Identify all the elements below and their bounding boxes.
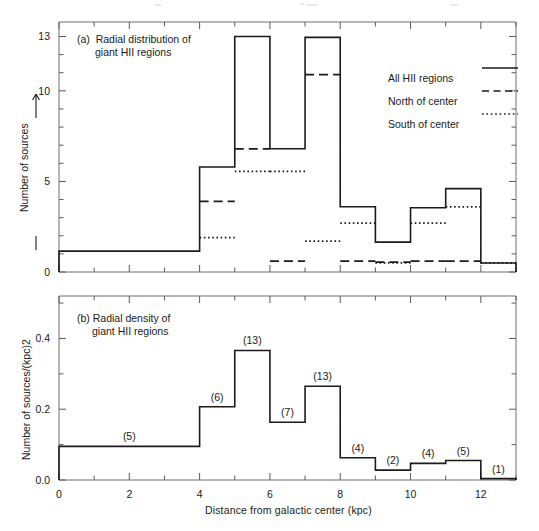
panel-b-ytick-label: 0.0 xyxy=(35,474,50,486)
panel-b-ylabel: Number of sources/(kpc)2 xyxy=(20,339,32,460)
panel-b-count-label: (5) xyxy=(457,445,470,457)
x-tick-label: 8 xyxy=(337,488,343,500)
panel-b-count-label: (13) xyxy=(313,370,332,382)
panel-a-ytick-label: 0 xyxy=(44,266,50,278)
panel-a-ylabel: Number of sources xyxy=(18,123,30,212)
scan-artifact-top xyxy=(150,2,539,9)
x-axis-label: Distance from galactic center (kpc) xyxy=(205,504,372,516)
panel-b-count-label: (1) xyxy=(492,463,505,475)
panel-b-count-label: (4) xyxy=(422,447,435,459)
panel-b-count-label: (5) xyxy=(123,430,136,442)
figure-root: 0510130.00.20.4024681012(5)(6)(13)(7)(13… xyxy=(0,0,539,531)
panel-a-ytick-label: 10 xyxy=(38,85,50,97)
panel-a-ylabel-arrow xyxy=(33,94,40,118)
panel-b-count-label: (4) xyxy=(351,442,364,454)
legend-item-south-label: South of center xyxy=(388,118,459,130)
panel-a-ytick-label: 5 xyxy=(44,175,50,187)
panel-b-caption: (b) Radial density of giant HII regions xyxy=(77,312,170,338)
panel-a-ytick-label: 13 xyxy=(38,30,50,42)
x-tick-label: 0 xyxy=(56,488,62,500)
panel-b-ytick-label: 0.2 xyxy=(35,403,50,415)
panel-b-count-label: (2) xyxy=(387,454,400,466)
panel-a-caption: (a) Radial distribution of giant HII reg… xyxy=(77,33,191,59)
histogram-canvas: 0510130.00.20.4024681012(5)(6)(13)(7)(13… xyxy=(0,0,539,531)
panel-b-count-label: (7) xyxy=(281,406,294,418)
panel-b-count-label: (6) xyxy=(211,391,224,403)
legend-item-north-label: North of center xyxy=(388,95,457,107)
panel-b-count-label: (13) xyxy=(243,334,262,346)
x-tick-label: 6 xyxy=(267,488,273,500)
x-tick-label: 12 xyxy=(475,488,487,500)
x-tick-label: 2 xyxy=(126,488,132,500)
x-tick-label: 4 xyxy=(197,488,203,500)
panel-b-ytick-label: 0.4 xyxy=(35,332,50,344)
legend-item-all-label: All HII regions xyxy=(388,72,453,84)
x-tick-label: 10 xyxy=(405,488,417,500)
